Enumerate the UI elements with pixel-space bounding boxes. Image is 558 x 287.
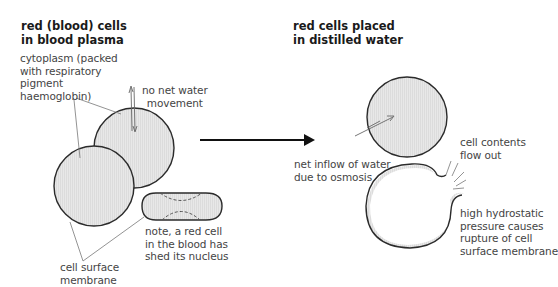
label-line: haemoglobin) [20,90,118,103]
label-line: due to osmosis [294,171,391,184]
cytoplasm-label: cytoplasm (packed with respiratory pigme… [20,52,118,102]
swollen-red-cell [367,77,447,157]
left-panel-title: red (blood) cells in blood plasma [21,19,127,47]
label-line: membrane [60,274,119,287]
label-line: pigment [20,77,118,90]
left-title-line: red (blood) cells [21,19,127,33]
label-line: cell surface [60,261,119,274]
rupture-lip-top [437,175,446,177]
label-line: movement [142,97,208,110]
right-title-line: red cells placed [293,19,403,33]
cell-membrane-label: cell surface membrane [60,261,119,286]
label-line: rupture of cell [460,232,558,245]
cell-contents-label: cell contents flow out [460,136,526,161]
label-line: with respiratory [20,65,118,78]
contents-flow-lines [446,161,466,189]
left-title-line: in blood plasma [21,33,127,47]
label-line: cell contents [460,136,526,149]
label-line: surface membrane [460,245,558,258]
label-line: no net water [142,84,208,97]
label-line: cytoplasm (packed [20,52,118,65]
biconcave-cell [142,193,222,220]
label-line: net inflow of water [294,158,391,171]
net-inflow-label: net inflow of water due to osmosis [294,158,391,183]
right-title-line: in distilled water [293,33,403,47]
label-line: high hydrostatic [460,207,558,220]
label-line: pressure causes [460,220,558,233]
note-label: note, a red cell in the blood has shed i… [145,225,228,263]
rupture-label: high hydrostatic pressure causes rupture… [460,207,558,257]
label-line: flow out [460,149,526,162]
red-cell-front [54,146,134,226]
label-line: note, a red cell [145,225,228,238]
label-line: in the blood has [145,238,228,251]
right-panel-title: red cells placed in distilled water [293,19,403,47]
label-line: shed its nucleus [145,250,228,263]
no-net-water-label: no net water movement [142,84,208,109]
transition-arrow [200,134,315,146]
